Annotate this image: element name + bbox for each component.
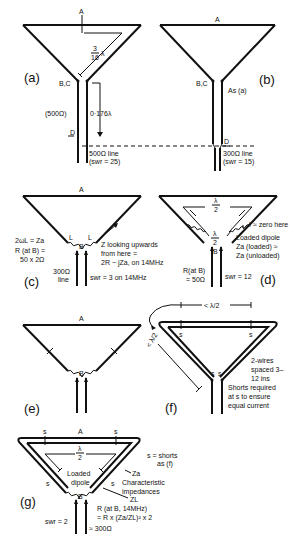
feed-point: B,C bbox=[59, 80, 71, 87]
svg-text:= R x (Za/ZL)² x 2: = R x (Za/ZL)² x 2 bbox=[97, 514, 152, 522]
panel-e: A B (e) bbox=[23, 315, 141, 416]
svg-text:I ≈ zero here: I ≈ zero here bbox=[249, 221, 288, 228]
svg-text:λ: λ bbox=[78, 445, 82, 452]
svg-text:A: A bbox=[78, 428, 83, 435]
svg-text:R (at B) =: R (at B) = bbox=[15, 247, 45, 255]
panel-g: s s A λ 2 Loaded dipole s s B s = shorts… bbox=[18, 428, 178, 534]
panel-a: A 3 16 λ (a) B,C (500Ω) 0·176λ D 500Ω li… bbox=[23, 8, 254, 166]
svg-text:λ: λ bbox=[213, 230, 217, 237]
svg-text:Loaded: Loaded bbox=[67, 470, 90, 477]
svg-text:2ωL = Za: 2ωL = Za bbox=[15, 237, 44, 244]
svg-text:L: L bbox=[88, 234, 92, 241]
svg-text:swr = 3 on 14MHz: swr = 3 on 14MHz bbox=[90, 274, 147, 281]
svg-text:B,C: B,C bbox=[196, 80, 208, 87]
svg-text:Loaded dipole: Loaded dipole bbox=[236, 234, 280, 242]
svg-text:= 50Ω: = 50Ω bbox=[186, 276, 205, 283]
svg-text:Z looking upwards: Z looking upwards bbox=[101, 241, 158, 249]
panel-d: λ 2 λ 2 B I ≈ zero here Loaded dipole Za… bbox=[159, 196, 288, 287]
svg-text:R(at B): R(at B) bbox=[183, 267, 205, 275]
svg-text:B: B bbox=[79, 243, 84, 250]
svg-text:spaced 3–: spaced 3– bbox=[251, 366, 283, 374]
svg-text:Characteristic: Characteristic bbox=[122, 479, 165, 486]
panel-c-label: (c) bbox=[24, 274, 39, 289]
svg-text:500Ω line: 500Ω line bbox=[89, 150, 119, 157]
svg-text:s = shorts: s = shorts bbox=[147, 452, 178, 459]
panel-d-label: (d) bbox=[260, 272, 276, 287]
panel-e-label: (e) bbox=[24, 401, 40, 416]
svg-text:D: D bbox=[224, 138, 229, 145]
panel-a-label: (a) bbox=[24, 70, 40, 85]
svg-text:50 x 2Ω: 50 x 2Ω bbox=[20, 256, 44, 263]
svg-text:2: 2 bbox=[213, 239, 217, 246]
panel-b: A (b) B,C As (a) D 300Ω line (swr = 15) bbox=[160, 16, 275, 171]
svg-text:(swr = 15): (swr = 15) bbox=[223, 158, 254, 166]
svg-text:B: B bbox=[213, 248, 218, 255]
svg-text:s: s bbox=[211, 370, 215, 377]
svg-text:2R − jZa, on 14MHz: 2R − jZa, on 14MHz bbox=[101, 259, 164, 267]
svg-text:(swr = 25): (swr = 25) bbox=[89, 158, 120, 166]
panel-b-label: (b) bbox=[259, 72, 275, 87]
svg-text:s: s bbox=[111, 480, 115, 487]
svg-text:300Ω line: 300Ω line bbox=[223, 150, 253, 157]
svg-text:Za (loaded) ≈: Za (loaded) ≈ bbox=[236, 243, 278, 251]
panel-f: s s < λ/2 < λ/2 s s 2-wires spaced 3– 12… bbox=[145, 298, 284, 415]
svg-text:swr = 2: swr = 2 bbox=[45, 518, 68, 525]
svg-text:s: s bbox=[249, 331, 253, 338]
svg-text:A: A bbox=[79, 315, 84, 322]
svg-text:dipole: dipole bbox=[71, 479, 90, 487]
svg-text:300Ω: 300Ω bbox=[53, 268, 70, 275]
svg-text:B: B bbox=[79, 370, 84, 377]
svg-text:impedances: impedances bbox=[122, 488, 160, 496]
panel-f-label: (f) bbox=[165, 400, 177, 415]
antenna-diagram: A 3 16 λ (a) B,C (500Ω) 0·176λ D 500Ω li… bbox=[0, 0, 303, 534]
svg-text:< λ/2: < λ/2 bbox=[204, 302, 219, 309]
svg-text:line: line bbox=[58, 276, 69, 283]
svg-text:s: s bbox=[43, 428, 47, 435]
line-length: 0·176λ bbox=[90, 110, 112, 117]
svg-text:As (a): As (a) bbox=[228, 87, 247, 95]
svg-text:as (f): as (f) bbox=[157, 460, 173, 468]
svg-text:16: 16 bbox=[91, 54, 99, 61]
svg-text:λ: λ bbox=[214, 197, 218, 204]
svg-text:Shorts required: Shorts required bbox=[228, 384, 276, 392]
svg-text:D: D bbox=[70, 129, 75, 136]
svg-text:2: 2 bbox=[214, 206, 218, 213]
svg-text:≈ 300Ω: ≈ 300Ω bbox=[89, 525, 112, 532]
panel-g-label: (g) bbox=[20, 494, 36, 509]
svg-text:s: s bbox=[218, 370, 222, 377]
svg-text:equal current: equal current bbox=[228, 402, 269, 410]
svg-text:at s to ensure: at s to ensure bbox=[228, 393, 271, 400]
svg-text:A: A bbox=[215, 16, 220, 23]
line-impedance: (500Ω) bbox=[45, 110, 67, 118]
svg-text:L: L bbox=[69, 234, 73, 241]
svg-text:12 ins: 12 ins bbox=[251, 375, 270, 382]
point-a: A bbox=[79, 8, 84, 15]
svg-text:swr = 12: swr = 12 bbox=[225, 273, 252, 280]
svg-text:λ: λ bbox=[101, 50, 105, 57]
svg-text:3: 3 bbox=[93, 45, 97, 52]
svg-text:2-wires: 2-wires bbox=[251, 357, 274, 364]
svg-text:Za (unloaded): Za (unloaded) bbox=[236, 252, 280, 260]
panel-c: A L L B 2ωL = Za R (at B) = 50 x 2Ω 300Ω… bbox=[15, 186, 164, 289]
svg-text:from here =: from here = bbox=[101, 250, 137, 257]
svg-text:B: B bbox=[78, 493, 83, 500]
svg-text:s: s bbox=[114, 428, 118, 435]
svg-text:s: s bbox=[46, 480, 50, 487]
svg-text:2: 2 bbox=[78, 454, 82, 461]
svg-text:A: A bbox=[79, 186, 84, 193]
svg-text:ZL: ZL bbox=[130, 496, 138, 503]
svg-text:Za: Za bbox=[132, 470, 140, 477]
svg-text:< λ/2: < λ/2 bbox=[145, 332, 159, 349]
svg-text:R (at B, 14MHz): R (at B, 14MHz) bbox=[97, 505, 147, 513]
svg-text:s: s bbox=[179, 331, 183, 338]
